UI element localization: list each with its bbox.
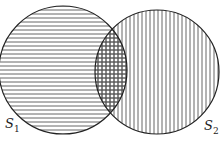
set-s2-label: S2 (204, 119, 219, 136)
set-s1-label: S1 (5, 117, 20, 134)
set-s2-label-sub: 2 (213, 126, 219, 136)
venn-diagram (0, 0, 221, 141)
set-s1-label-sub: 1 (14, 124, 20, 134)
set-s1-label-base: S (5, 116, 14, 131)
set-s2-label-base: S (204, 118, 213, 133)
